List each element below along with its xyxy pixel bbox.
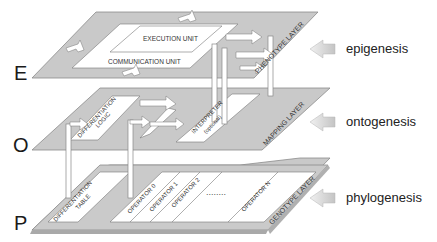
diagram: EXECUTION UNIT COMMUNICATION UNIT DIFFER… — [0, 0, 437, 242]
process-label-epigenesis: epigenesis — [346, 41, 408, 56]
layer-letter-o: O — [13, 134, 29, 157]
operator-ellipsis: ........ — [206, 187, 226, 197]
phylogenesis-arrow-icon — [310, 189, 335, 207]
layer-letter-p: P — [14, 212, 27, 235]
epigenesis-arrow-icon — [310, 40, 335, 58]
communication-unit-label: COMMUNICATION UNIT — [108, 58, 181, 65]
process-label-phylogenesis: phylogenesis — [346, 190, 422, 205]
ontogenesis-arrow-icon — [310, 113, 335, 131]
layer-letter-e: E — [14, 62, 27, 85]
execution-unit-label: EXECUTION UNIT — [143, 35, 198, 42]
process-label-ontogenesis: ontogenesis — [346, 114, 416, 129]
